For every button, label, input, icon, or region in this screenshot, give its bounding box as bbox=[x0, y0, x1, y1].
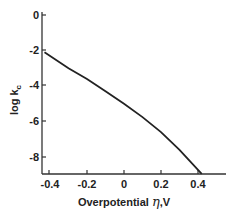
y-axis: 0 -2 -4 -6 -8 log kc bbox=[8, 9, 46, 174]
x-axis: -0.4 -0.2 0 0.2 0.4 Overpotential η,V bbox=[41, 170, 226, 209]
y-tick-label: -8 bbox=[29, 151, 39, 163]
x-tick-label: -0.2 bbox=[78, 178, 97, 190]
x-tick-label: 0.4 bbox=[190, 178, 206, 190]
y-axis-label: log kc bbox=[8, 84, 23, 115]
x-tick-label: -0.4 bbox=[41, 178, 61, 190]
y-tick-label: -4 bbox=[29, 79, 40, 91]
y-tick-label: 0 bbox=[33, 9, 39, 21]
chart: 0 -2 -4 -6 -8 log kc -0.4 -0.2 0 0.2 0.4… bbox=[0, 0, 238, 215]
x-tick-label: 0 bbox=[121, 178, 127, 190]
y-tick-label: -6 bbox=[29, 115, 39, 127]
y-tick-label: -2 bbox=[29, 44, 39, 56]
x-tick-label: 0.2 bbox=[153, 178, 168, 190]
x-axis-label: Overpotential η,V bbox=[78, 194, 171, 209]
data-line bbox=[45, 52, 202, 174]
